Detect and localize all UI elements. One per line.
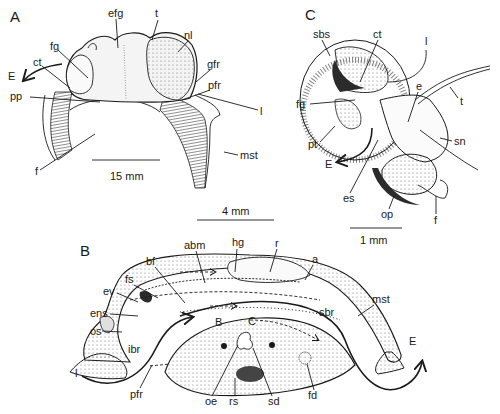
label-fg: fg bbox=[296, 98, 305, 110]
anatomical-figure: A efg t nl fg ct E gfr pfr l pp m bbox=[0, 0, 500, 414]
radular-sac bbox=[236, 366, 264, 382]
panel-c-label: C bbox=[305, 6, 316, 23]
scale-label-c: 1 mm bbox=[360, 234, 388, 246]
label-es: es bbox=[343, 192, 355, 204]
label-hg: hg bbox=[232, 236, 244, 248]
label-ev: ev bbox=[103, 285, 115, 297]
label-l: l bbox=[260, 105, 262, 117]
label-E: E bbox=[8, 70, 15, 82]
label-pp: pp bbox=[10, 90, 22, 102]
leader-sbs bbox=[322, 40, 330, 56]
label-efg: efg bbox=[108, 7, 123, 19]
tentacle-t bbox=[415, 66, 490, 100]
label-t: t bbox=[460, 95, 463, 107]
panel-b-label: B bbox=[80, 242, 90, 259]
label-f: f bbox=[434, 214, 438, 226]
flow-line-upper bbox=[130, 292, 320, 300]
label-ct: ct bbox=[373, 28, 382, 40]
label-oe: oe bbox=[205, 395, 217, 407]
label-fg: fg bbox=[50, 40, 59, 52]
label-op: op bbox=[381, 208, 393, 220]
hypobranchial-gland bbox=[145, 278, 300, 290]
leader-l bbox=[388, 50, 426, 82]
right-muscle-fibers bbox=[160, 92, 207, 188]
label-sbs: sbs bbox=[313, 28, 331, 40]
label-abm: abm bbox=[184, 239, 205, 251]
label-pfr: pfr bbox=[130, 388, 143, 400]
scale-label-a: 15 mm bbox=[110, 170, 144, 182]
label-l: l bbox=[75, 367, 77, 379]
label-sbr: sbr bbox=[319, 306, 335, 318]
label-fd: fd bbox=[308, 389, 317, 401]
label-pt: pt bbox=[308, 138, 317, 150]
label-fs: fs bbox=[125, 273, 134, 285]
salivary-duct bbox=[269, 342, 275, 348]
leader-es bbox=[350, 140, 378, 193]
label-sn: sn bbox=[454, 135, 466, 147]
inner-lobe bbox=[335, 99, 361, 129]
leader-mst bbox=[224, 152, 238, 155]
label-sd: sd bbox=[268, 395, 280, 407]
label-E: E bbox=[409, 335, 416, 347]
label-gfr: gfr bbox=[207, 58, 220, 70]
label-f: f bbox=[35, 165, 39, 177]
label-E: E bbox=[325, 158, 332, 170]
label-l: l bbox=[425, 35, 427, 47]
label-r: r bbox=[275, 237, 279, 249]
label-mst: mst bbox=[372, 293, 390, 305]
label-flow-C: C bbox=[248, 315, 256, 327]
exhalant-arrow-c bbox=[338, 128, 372, 162]
left-muscle-fibers bbox=[51, 92, 72, 160]
label-ct: ct bbox=[33, 56, 42, 68]
scale-label-b: 4 mm bbox=[222, 205, 250, 217]
label-nl: nl bbox=[184, 29, 193, 41]
label-flow-B: B bbox=[215, 316, 222, 328]
body-section bbox=[165, 318, 355, 396]
leader-l bbox=[198, 94, 258, 110]
leader-t bbox=[450, 87, 458, 98]
label-pfr: pfr bbox=[208, 79, 221, 91]
panel-c: C sbs ct l e t fg sn pt E es bbox=[296, 6, 490, 246]
label-e: e bbox=[416, 80, 422, 92]
nerve-dot bbox=[221, 343, 227, 349]
label-a: a bbox=[312, 253, 319, 265]
panel-a-label: A bbox=[10, 8, 20, 25]
label-ens: ens bbox=[90, 307, 108, 319]
label-t: t bbox=[155, 7, 158, 19]
label-mst: mst bbox=[240, 149, 258, 161]
panel-a: A efg t nl fg ct E gfr pfr l pp m bbox=[8, 7, 262, 188]
leader-pt bbox=[320, 126, 335, 142]
label-ibr: ibr bbox=[128, 343, 141, 355]
label-bf: bf bbox=[146, 255, 156, 267]
label-rs: rs bbox=[229, 395, 239, 407]
label-os: os bbox=[90, 325, 102, 337]
